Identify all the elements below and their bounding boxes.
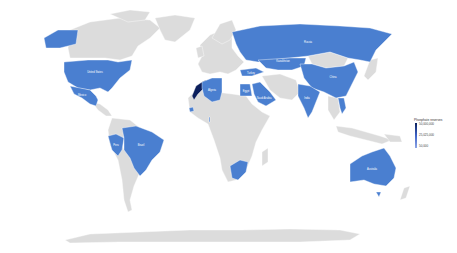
country-senegal[interactable] (189, 107, 194, 112)
label-china: China (330, 75, 337, 79)
label-turkey: Turkey (247, 71, 256, 75)
legend-tick-min: 50,000 (419, 144, 428, 148)
region-antarctica[interactable] (65, 229, 360, 243)
region-africa[interactable] (188, 90, 270, 182)
label-kazakhstan: Kazakhstan (276, 59, 290, 63)
country-canada[interactable] (68, 18, 160, 60)
legend-tick-max: 50,000,000 (419, 122, 434, 126)
label-mexico: Mexico (78, 93, 87, 97)
label-russia: Russia (304, 40, 312, 44)
country-new-zealand[interactable] (400, 186, 410, 200)
region-indonesia[interactable] (336, 126, 392, 144)
country-togo[interactable] (209, 117, 210, 122)
country-australia[interactable] (350, 148, 396, 186)
world-map: United States Mexico Peru Brazil Algeria… (0, 0, 457, 253)
legend-tick-mid: 25,025,000 (419, 133, 434, 137)
label-saudi-arabia: Saudi Arabia (257, 96, 272, 100)
label-united-states: United States (87, 70, 103, 74)
label-australia: Australia (367, 167, 378, 171)
label-peru: Peru (113, 143, 119, 147)
country-madagascar[interactable] (262, 148, 268, 166)
color-legend: Phosphate reserves 50,000,000 25,025,000… (414, 118, 454, 150)
country-australia-tasmania[interactable] (376, 192, 381, 197)
label-india: India (304, 96, 310, 100)
country-greenland[interactable] (155, 15, 195, 42)
legend-gradient-bar (415, 123, 417, 148)
label-egypt: Egypt (243, 89, 250, 93)
label-brazil: Brazil (138, 143, 145, 147)
label-algeria: Algeria (208, 88, 217, 92)
